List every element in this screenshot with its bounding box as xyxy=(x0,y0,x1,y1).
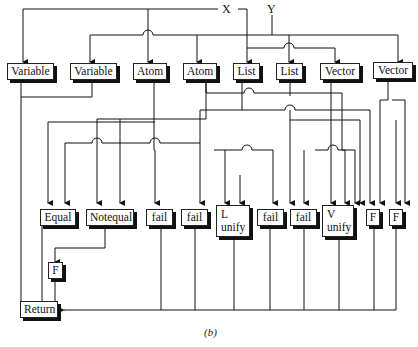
input-y-label: Y xyxy=(267,2,276,17)
vector-unify-line2: unify xyxy=(327,221,349,234)
list-unify-line2: unify xyxy=(221,221,245,234)
fail-result-3: fail xyxy=(257,209,284,226)
list-x-test: List xyxy=(233,63,260,80)
wiring-diagram xyxy=(0,0,418,347)
vector-y-test: Vector xyxy=(373,62,413,79)
fail-result-1: fail xyxy=(146,209,173,226)
vector-unify-result: V unify xyxy=(322,205,354,237)
vector-unify-line1: V xyxy=(327,208,349,221)
variable-x-test: Variable xyxy=(7,63,54,80)
false-result-1: F xyxy=(366,209,380,226)
atom-x-test: Atom xyxy=(133,63,167,80)
list-unify-result: L unify xyxy=(216,205,250,237)
variable-y-test: Variable xyxy=(70,63,117,80)
figure-caption: (b) xyxy=(204,326,217,338)
list-unify-line1: L xyxy=(221,208,245,221)
vector-x-test: Vector xyxy=(320,63,360,80)
notequal-false-result: F xyxy=(48,262,63,279)
list-y-test: List xyxy=(276,63,303,80)
false-result-2: F xyxy=(389,209,403,226)
return-node: Return xyxy=(20,301,58,318)
fail-result-4: fail xyxy=(290,209,317,226)
input-x-label: X xyxy=(222,2,231,17)
notequal-result: Notequal xyxy=(86,209,134,226)
atom-y-test: Atom xyxy=(183,63,217,80)
equal-result: Equal xyxy=(40,209,76,226)
fail-result-2: fail xyxy=(181,209,208,226)
